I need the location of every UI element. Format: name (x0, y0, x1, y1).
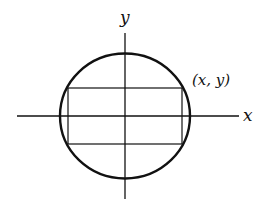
y-axis-label: y (119, 7, 130, 27)
diagram-canvas: y x (x, y) (0, 0, 265, 204)
x-axis-label: x (243, 105, 253, 125)
point-label: (x, y) (192, 71, 230, 89)
